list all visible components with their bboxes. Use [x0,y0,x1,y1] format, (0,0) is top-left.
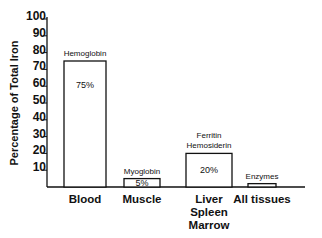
bar-annotation: Enzymes [246,172,279,181]
bar-group: 75%Hemoglobin [64,49,107,187]
category-label: Muscle [123,193,162,205]
y-tick-label: 100 [26,9,46,23]
y-tick-label: 90 [33,26,47,40]
category-label: Marrow [189,219,230,231]
y-tick-label: 50 [33,93,47,107]
y-tick-label: 60 [33,76,47,90]
bar-group: Enzymes [246,172,279,187]
bars: 75%Hemoglobin5%Myoglobin20%FerritinHemos… [64,49,279,188]
y-tick-label: 10 [33,160,47,174]
bar [248,184,276,187]
bar-value-label: 75% [76,80,94,90]
category-label: All tissues [233,193,291,205]
bar-value-label: 5% [135,178,148,188]
y-tick-label: 40 [33,110,47,124]
bar-value-label: 20% [200,165,218,175]
bar-group: 5%Myoglobin [124,167,160,188]
bar-annotation: Hemosiderin [187,141,232,150]
bar-annotation: Hemoglobin [64,49,107,58]
bar-annotation: Ferritin [197,131,222,140]
y-tick-label: 70 [33,59,47,73]
y-axis-label: Percentage of Total Iron [8,40,20,165]
bar-group: 20%FerritinHemosiderin [186,131,232,187]
y-axis-ticks: 102030405060708090100 [26,9,47,174]
category-label: Liver [195,193,223,205]
y-tick-label: 20 [33,143,47,157]
category-label: Blood [69,193,102,205]
bar-annotation: Myoglobin [124,167,160,176]
category-label: Spleen [190,206,228,218]
y-tick-label: 80 [33,43,47,57]
y-tick-label: 30 [33,127,47,141]
category-labels: BloodMuscleLiverSpleenMarrowAll tissues [69,193,291,231]
iron-distribution-chart: 102030405060708090100 Percentage of Tota… [0,0,322,238]
